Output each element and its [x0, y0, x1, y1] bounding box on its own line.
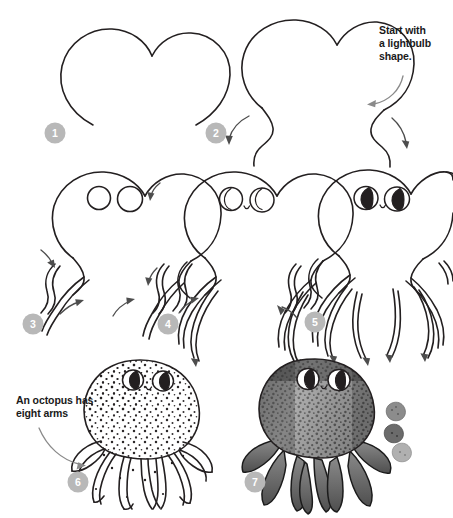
- step-badge-2-number: 2: [213, 127, 219, 139]
- step-badge-4-number: 4: [165, 318, 171, 330]
- step-badge-7-number: 7: [252, 476, 258, 488]
- note-lightbulb-shape: Start with a lightbulb shape.: [379, 24, 453, 63]
- step-badge-1[interactable]: 1: [45, 123, 66, 144]
- step-badge-3-number: 3: [30, 318, 36, 330]
- step-badge-5-number: 5: [312, 316, 318, 328]
- step-badge-3[interactable]: 3: [23, 314, 44, 335]
- step-badges-layer: 1 2 3 4 5 6 7: [0, 0, 453, 518]
- step-badge-6[interactable]: 6: [68, 472, 89, 493]
- step-badge-4[interactable]: 4: [158, 314, 179, 335]
- step-badge-7[interactable]: 7: [245, 472, 266, 493]
- step-badge-6-number: 6: [75, 476, 81, 488]
- note-eight-arms: An octopus has eight arms: [16, 394, 136, 420]
- step-badge-1-number: 1: [52, 127, 58, 139]
- step-badge-5[interactable]: 5: [305, 312, 326, 333]
- tutorial-canvas: 1 2 3 4 5 6 7 Start with a lightbulb sha…: [0, 0, 453, 518]
- step-badge-2[interactable]: 2: [206, 123, 227, 144]
